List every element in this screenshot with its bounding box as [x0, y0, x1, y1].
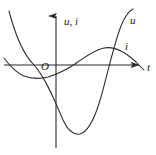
- u-curve-label: u: [130, 15, 136, 26]
- i-curve-label: i: [125, 41, 128, 52]
- y-axis-label: u, i: [64, 16, 78, 27]
- x-axis-label: t: [147, 62, 150, 73]
- origin-label: O: [41, 61, 49, 72]
- u-curve: [9, 9, 133, 134]
- waveform-figure: u, i t u i O: [0, 0, 156, 155]
